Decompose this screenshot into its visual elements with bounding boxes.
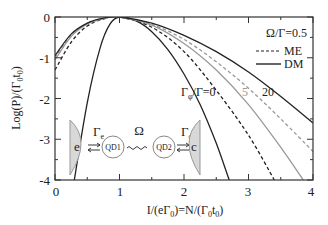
legend: Ω/Γ=0.5 ME DM xyxy=(256,26,307,71)
reservoir-c-label: c xyxy=(191,139,197,154)
legend-title: Ω/Γ=0.5 xyxy=(266,26,307,40)
tunnel-arrows-left xyxy=(88,143,100,152)
chart: 0 -1 -2 -3 -4 0 1 2 3 4 I/(eΓ0)=N/(Γ0t0)… xyxy=(0,0,328,225)
y-tick-label: -2 xyxy=(39,92,50,107)
inset-diagram: e Γe QD1 Ω QD2 Γc c xyxy=(70,120,200,175)
x-tick-label: 3 xyxy=(245,184,252,199)
tunnel-arrows-right xyxy=(177,143,189,152)
rate-e-label: Γe xyxy=(93,124,105,141)
y-axis-label: Log(P)/(Γ0t0) xyxy=(9,66,25,130)
legend-dm-label: DM xyxy=(284,57,304,71)
y-tick-label: -3 xyxy=(39,132,50,147)
qd2-label: QD2 xyxy=(156,143,172,152)
y-tick-label: -4 xyxy=(39,173,50,188)
annotation-5: 5 xyxy=(242,85,248,99)
x-tick-label: 4 xyxy=(308,184,315,199)
annotation-gamma-ratio: Γφ/Γ=0 xyxy=(181,85,216,101)
x-tick-label: 1 xyxy=(117,184,124,199)
coupling-wave xyxy=(127,147,147,150)
y-tick-label: 0 xyxy=(44,10,51,25)
annotation-20: 20 xyxy=(262,85,274,99)
y-tick-label: -1 xyxy=(39,51,50,66)
x-tick-label: 0 xyxy=(53,184,60,199)
x-axis-label: I/(eΓ0)=N/(Γ0t0) xyxy=(147,203,224,219)
x-tick-label: 2 xyxy=(181,184,188,199)
legend-me-label: ME xyxy=(284,44,302,58)
qd1-label: QD1 xyxy=(105,143,121,152)
omega-label: Ω xyxy=(134,123,144,138)
reservoir-e-label: e xyxy=(74,139,80,154)
